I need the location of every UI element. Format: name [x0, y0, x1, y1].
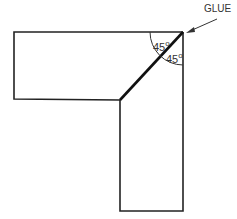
miter-joint-diagram: 45o 45o GLUE — [0, 0, 237, 219]
angle-label-lower: 45o — [166, 51, 183, 65]
glue-label: GLUE — [204, 3, 232, 14]
glue-arrow-head-icon — [186, 27, 195, 33]
angle-label-upper: 45o — [153, 39, 170, 53]
